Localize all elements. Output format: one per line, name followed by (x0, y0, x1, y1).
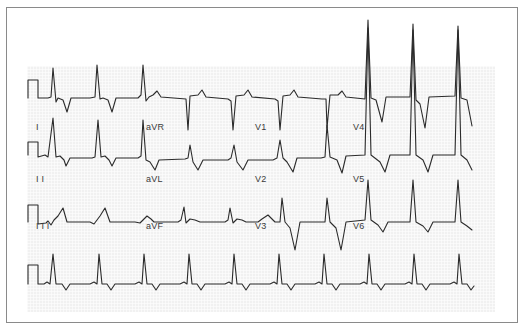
lead-label-i: I (36, 122, 39, 132)
ecg-traces (0, 0, 525, 332)
lead-label-v3: V3 (255, 221, 266, 231)
lead-label-avl: aVL (146, 174, 163, 184)
ecg-rhythm-strip-trace (28, 254, 474, 290)
lead-label-v6: V6 (353, 221, 364, 231)
lead-label-v2: V2 (255, 174, 266, 184)
lead-label-ii: I I (36, 174, 44, 184)
lead-label-avr: aVR (146, 122, 164, 132)
lead-label-v4: V4 (353, 122, 364, 132)
ecg-row-3-trace (28, 180, 472, 250)
lead-label-iii: I I I (36, 221, 50, 231)
ecg-row-2-trace (28, 28, 472, 173)
ecg-row-1-trace (28, 20, 472, 130)
lead-label-avf: aVF (146, 221, 163, 231)
lead-label-v1: V1 (255, 122, 266, 132)
lead-label-v5: V5 (353, 174, 364, 184)
